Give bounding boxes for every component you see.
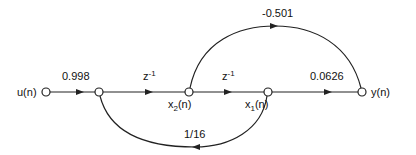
signal-flow-graph: u(n) y(n) x2(n) x1(n) 0.998 z-1 z-1 0.06… xyxy=(0,0,416,155)
arrow-icon xyxy=(192,144,200,150)
gain-output: 0.0626 xyxy=(310,70,344,82)
label-u: u(n) xyxy=(17,86,37,98)
arrow-icon xyxy=(76,89,84,95)
label-x2: x2(n) xyxy=(168,98,191,113)
node-x1 xyxy=(264,88,272,96)
arrow-icon xyxy=(224,89,232,95)
node-sum xyxy=(95,88,103,96)
label-y: y(n) xyxy=(371,86,390,98)
gain-delay-2: z-1 xyxy=(222,69,235,82)
arrow-icon xyxy=(270,23,278,29)
arrow-icon xyxy=(324,89,332,95)
label-x1: x1(n) xyxy=(245,98,268,113)
gain-feedforward: -0.501 xyxy=(262,7,293,19)
node-u xyxy=(42,88,50,96)
gain-input: 0.998 xyxy=(62,70,90,82)
gain-delay-1: z-1 xyxy=(143,69,156,82)
gain-feedback: 1/16 xyxy=(184,128,205,140)
node-x2 xyxy=(185,88,193,96)
node-y xyxy=(358,88,366,96)
arrow-icon xyxy=(145,89,153,95)
